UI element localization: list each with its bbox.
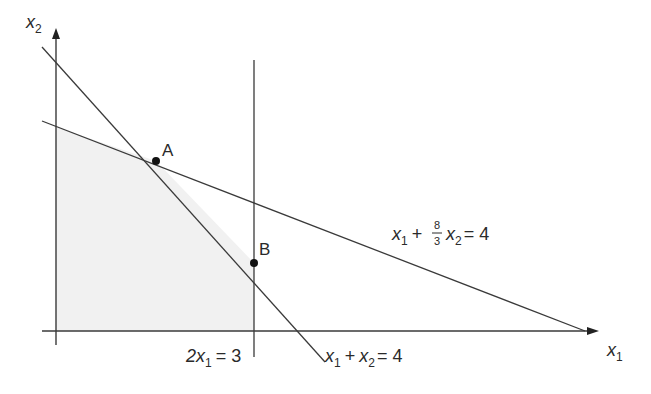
- x-axis-label: x1: [606, 340, 623, 364]
- x2-axis-arrow-icon: [52, 28, 60, 39]
- point-a: [152, 157, 160, 165]
- point-b: [250, 259, 258, 267]
- lp-diagram: A B x2 x1 x1+ 8 3 x2= 4 2x1= 3 x1+x2= 4: [0, 0, 651, 394]
- label-constraint-2: 2x1= 3: [185, 346, 241, 370]
- svg-text:8: 8: [434, 219, 440, 231]
- label-constraint-3: x1+x2= 4: [324, 346, 402, 370]
- label-constraint-1: x1+ 8 3 x2= 4: [391, 219, 489, 248]
- svg-text:x2= 4: x2= 4: [445, 224, 489, 248]
- svg-text:3: 3: [434, 235, 440, 247]
- y-axis-label: x2: [25, 12, 42, 36]
- point-b-label: B: [259, 240, 270, 259]
- point-a-label: A: [162, 141, 174, 160]
- svg-text:x1+: x1+: [391, 224, 422, 248]
- x1-axis-arrow-icon: [587, 327, 599, 335]
